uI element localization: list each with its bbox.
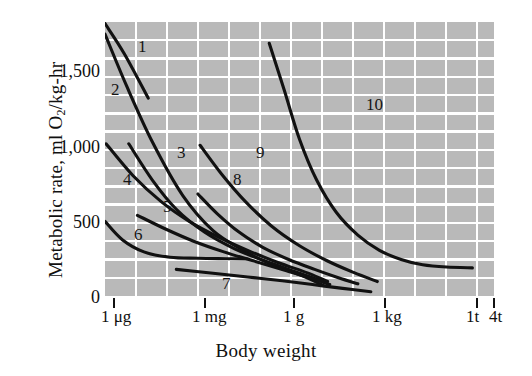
curve-label-9: 9 — [256, 143, 265, 162]
curve-label-7: 7 — [222, 274, 231, 293]
curve-label-6: 6 — [134, 225, 143, 244]
curve-label-5: 5 — [163, 197, 172, 216]
plot-area: 12345678910 — [0, 0, 532, 376]
curve-label-8: 8 — [233, 170, 242, 189]
curve-label-10: 10 — [366, 95, 383, 114]
curve-label-4: 4 — [123, 170, 132, 189]
curve-label-2: 2 — [111, 80, 120, 99]
curve-label-1: 1 — [138, 37, 147, 56]
curve-label-3: 3 — [177, 143, 186, 162]
axis-tick-marks — [114, 298, 494, 308]
metabolic-rate-chart: Metabolic rate, ml O2/kg-hr 1,500 1,000 … — [0, 0, 532, 376]
